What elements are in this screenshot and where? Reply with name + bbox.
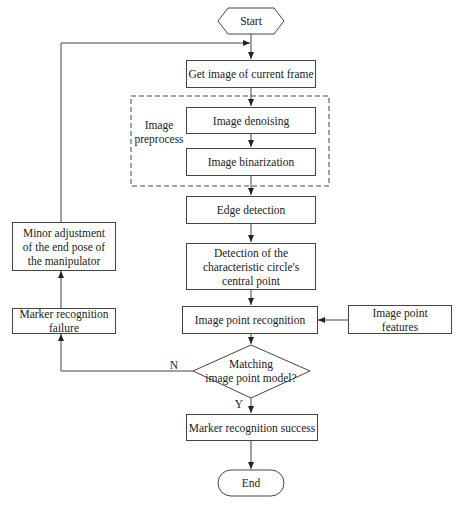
start-terminal: Start xyxy=(218,8,284,34)
binarization-step: Image binarization xyxy=(186,148,316,176)
decision-line1: Matching xyxy=(229,357,273,371)
circle-center-line3: central point xyxy=(222,274,280,288)
point-features-input: Image point features xyxy=(348,305,452,334)
binarization-label: Image binarization xyxy=(208,155,295,169)
decision-line2: image point model? xyxy=(205,371,296,385)
success-step: Marker recognition success xyxy=(186,414,318,441)
failure-step: Marker recognition failure xyxy=(12,308,116,334)
get-image-label: Get image of current frame xyxy=(188,67,313,81)
preprocess-label-line2: preprocess xyxy=(133,132,185,146)
point-recognition-label: Image point recognition xyxy=(195,313,306,327)
get-image-step: Get image of current frame xyxy=(186,60,316,88)
decision-text: Matching image point model? xyxy=(200,353,302,389)
circle-center-detection-step: Detection of the characteristic circle's… xyxy=(186,243,316,290)
denoising-step: Image denoising xyxy=(186,107,316,134)
end-label: End xyxy=(242,476,261,490)
yes-branch-label: Y xyxy=(233,397,245,411)
adjust-line2: of the end pose of xyxy=(23,240,105,254)
point-features-line2: features xyxy=(382,320,418,334)
pose-adjustment-step: Minor adjustment of the end pose of the … xyxy=(12,222,116,271)
failure-line1: Marker recognition xyxy=(19,307,108,321)
start-label: Start xyxy=(240,14,262,28)
success-label: Marker recognition success xyxy=(189,421,315,435)
circle-center-line2: characteristic circle's xyxy=(203,260,299,274)
denoising-label: Image denoising xyxy=(213,114,289,128)
adjust-line1: Minor adjustment xyxy=(23,226,105,240)
adjust-line3: the manipulator xyxy=(28,254,101,268)
edge-detection-step: Edge detection xyxy=(186,196,316,224)
preprocess-label-line1: Image xyxy=(133,118,185,132)
preprocess-group-label: Image preprocess xyxy=(133,118,185,146)
edge-detection-label: Edge detection xyxy=(217,203,286,217)
point-recognition-step: Image point recognition xyxy=(182,306,318,334)
end-terminal: End xyxy=(218,470,284,496)
no-branch-label: N xyxy=(168,358,180,372)
point-features-line1: Image point xyxy=(372,306,427,320)
circle-center-line1: Detection of the xyxy=(214,246,288,260)
failure-line2: failure xyxy=(49,321,79,335)
